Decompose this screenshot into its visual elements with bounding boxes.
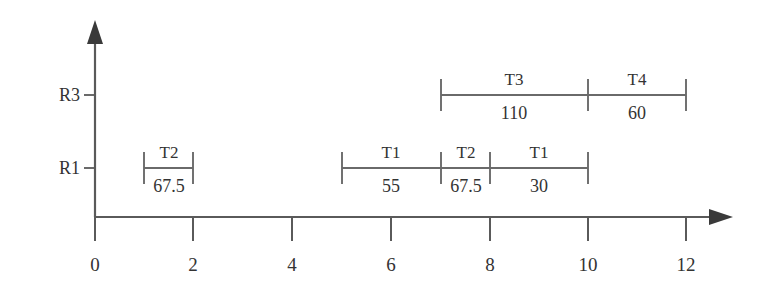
y-axis-ticks [84,95,95,168]
task-name-r1-t1b: T1 [530,144,549,161]
task-duration-r1-t2a: 67.5 [153,177,185,195]
x-tick-label-12: 12 [677,255,696,274]
x-tick-label-0: 0 [90,255,100,274]
bar-group-r1 [144,152,588,184]
x-tick-label-10: 10 [579,255,598,274]
task-name-r3-t3: T3 [505,71,524,88]
y-axis-arrow-icon [87,20,103,44]
task-duration-r1-t1b: 30 [530,177,548,195]
x-axis-ticks [95,217,686,241]
task-duration-r1-t2b: 67.5 [450,177,482,195]
task-duration-r3-t4: 60 [628,104,646,122]
bar-group-r3 [441,79,686,111]
row-label-r1: R1 [59,159,80,177]
x-tick-label-8: 8 [485,255,495,274]
x-tick-label-2: 2 [188,255,198,274]
task-name-r1-t1a: T1 [382,144,401,161]
x-axis-arrow-icon [709,209,733,225]
task-name-r1-t2b: T2 [457,144,476,161]
x-tick-label-6: 6 [386,255,396,274]
row-label-r3: R3 [59,86,80,104]
task-duration-r1-t1a: 55 [382,177,400,195]
task-duration-r3-t3: 110 [501,104,527,122]
task-name-r3-t4: T4 [628,71,647,88]
gantt-schedule-chart: R3 R1 0 2 4 6 8 10 12 T3 110 T4 60 T2 67… [0,0,769,293]
task-name-r1-t2a: T2 [160,144,179,161]
x-tick-label-4: 4 [287,255,297,274]
